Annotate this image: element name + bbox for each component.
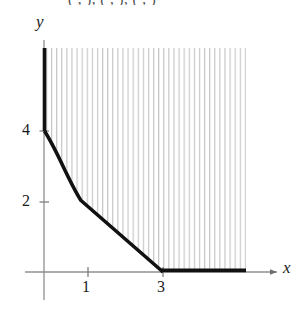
- x-axis-label: x: [283, 258, 291, 278]
- graph-figure: [0, 0, 303, 323]
- x-axis-arrow-icon: [270, 269, 277, 274]
- x-tick-label-3: 3: [157, 278, 165, 296]
- y-tick-label-2: 2: [22, 192, 30, 210]
- y-axis-label: y: [36, 12, 44, 32]
- feasible-region-hatch: [44, 48, 246, 272]
- x-tick-label-1: 1: [82, 278, 90, 296]
- y-tick-label-4: 4: [22, 121, 30, 139]
